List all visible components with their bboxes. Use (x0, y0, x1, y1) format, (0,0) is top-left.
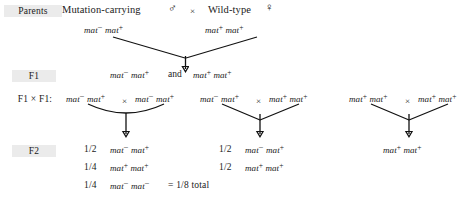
cross-3-connector (371, 104, 448, 134)
cross-2-offspring-1-genotype: mat− mat+ (245, 145, 284, 155)
cross-1-offspring-3-note: = 1/8 total (168, 180, 209, 190)
row-label-f1: F1 (12, 70, 56, 82)
cross-1-parent-left: mat− mat+ (66, 94, 105, 104)
cross-1-offspring-3-fraction: 1/4 (84, 180, 97, 190)
cross-1-offspring-2-fraction: 1/4 (84, 162, 97, 172)
cross-1-offspring-1-fraction: 1/2 (84, 144, 97, 154)
cross-3-parent-right: mat+ mat+ (418, 94, 456, 104)
cross-1-offspring-2-genotype: mat+ mat+ (110, 163, 148, 173)
f1-conjunction: and (168, 69, 182, 79)
cross-2-offspring-2-fraction: 1/2 (219, 162, 232, 172)
genetics-cross-diagram: Parents Mutation-carrying ♂ × Wild-type … (0, 0, 474, 205)
cross-2-symbol: × (256, 96, 261, 106)
cross-1-connector (88, 104, 164, 134)
row-label-f2: F2 (12, 145, 56, 157)
male-symbol: ♂ (168, 3, 177, 15)
parent-left-genotype: mat− mat+ (84, 25, 123, 35)
row-label-parents: Parents (4, 5, 62, 17)
row-label-f1-cross-f1: F1 × F1: (2, 93, 68, 105)
cross-2-parent-right: mat+ mat+ (269, 94, 307, 104)
cross-1-parent-right: mat− mat+ (135, 94, 174, 104)
parent-left-phenotype: Mutation-carrying (62, 4, 141, 15)
cross-2-offspring-1-fraction: 1/2 (219, 144, 232, 154)
cross-2-connector (222, 104, 299, 134)
cross-3-offspring-1-genotype: mat+ mat+ (383, 145, 421, 155)
cross-1-offspring-3-genotype: mat− mat− (110, 181, 150, 191)
parent-right-phenotype: Wild-type (208, 4, 251, 15)
parent-right-genotype: mat+ mat+ (205, 25, 243, 35)
cross-3-parent-left: mat+ mat+ (349, 94, 387, 104)
f1-genotype-b: mat+ mat+ (193, 70, 231, 80)
female-symbol: ♀ (265, 2, 274, 14)
parents-to-f1-connector (113, 37, 257, 69)
f1-genotype-a: mat− mat+ (110, 70, 149, 80)
cross-1-offspring-1-genotype: mat− mat+ (110, 145, 149, 155)
cross-2-offspring-2-genotype: mat+ mat+ (245, 163, 283, 173)
parents-cross-symbol: × (190, 6, 195, 16)
cross-1-symbol: × (122, 96, 127, 106)
cross-2-parent-left: mat− mat+ (200, 94, 239, 104)
cross-3-symbol: × (405, 96, 410, 106)
